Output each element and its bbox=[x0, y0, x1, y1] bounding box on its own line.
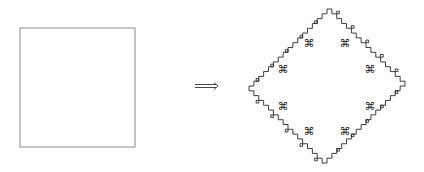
transformation-diagram: ⌘⌘⌘⌘⌘⌘⌘⌘ bbox=[0, 0, 424, 172]
loop-motif-icon: ⌘ bbox=[340, 125, 351, 138]
loop-motif-icon: ⌘ bbox=[304, 37, 315, 50]
original-square bbox=[20, 28, 135, 147]
implies-arrow-icon bbox=[195, 83, 218, 90]
loop-motif-icon: ⌘ bbox=[365, 63, 376, 76]
loop-motif-icon: ⌘ bbox=[304, 125, 315, 138]
fractal-diamond-curve bbox=[249, 9, 405, 163]
loop-motif-icon: ⌘ bbox=[340, 37, 351, 50]
loop-motif-icon: ⌘ bbox=[365, 100, 376, 113]
loop-motifs: ⌘⌘⌘⌘⌘⌘⌘⌘ bbox=[278, 37, 376, 138]
loop-motif-icon: ⌘ bbox=[278, 63, 289, 76]
loop-motif-icon: ⌘ bbox=[278, 100, 289, 113]
